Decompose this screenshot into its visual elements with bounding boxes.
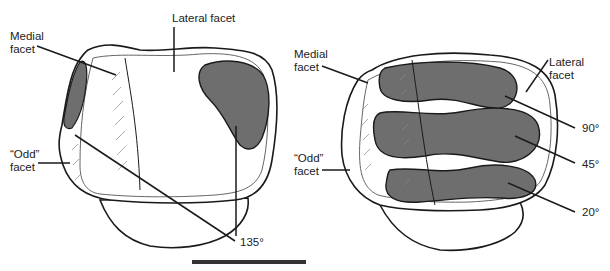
label-odd-facet-left: “Odd” facet [10,148,39,174]
label-medial-facet-left: Medial facet [10,30,44,56]
label-angle-135: 135° [240,236,264,249]
scale-bar [192,260,306,264]
contact-band-20 [386,165,536,202]
label-lateral-facet-right: Lateral facet [549,56,584,82]
label-lateral-facet-left: Lateral facet [172,12,235,25]
label-angle-90: 90° [582,122,599,135]
patella-diagram [0,0,610,271]
right-patella [342,53,558,250]
label-medial-facet-right: Medial facet [294,48,328,74]
patella-apex [100,198,248,248]
label-angle-45: 45° [582,158,599,171]
label-odd-facet-right: “Odd” facet [294,152,323,178]
contact-band-45 [373,108,539,162]
label-angle-20: 20° [582,206,599,219]
